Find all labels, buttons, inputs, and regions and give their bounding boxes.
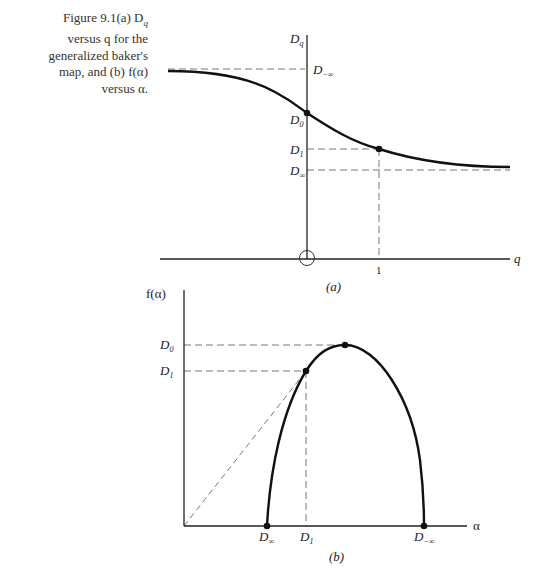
diagonal-dashed-line	[184, 371, 306, 526]
f-alpha-axis-label: f(α)	[146, 286, 166, 301]
x-dneginf-label: D−∞	[413, 529, 435, 546]
panel-a: Dq D−∞ D0 D1 D∞ 1 q (a)	[160, 31, 521, 294]
b-d1-label: D1	[159, 363, 173, 380]
d1-point	[376, 146, 383, 153]
dq-curve	[168, 71, 510, 167]
panel-b: f(α) D0 D1 D∞ D1 D−∞ α (b)	[146, 286, 480, 564]
alpha-axis-label: α	[473, 518, 480, 533]
dneginf-label: D−∞	[312, 62, 334, 79]
dq-axis-label: Dq	[289, 31, 303, 48]
d0-label: D0	[289, 112, 303, 129]
f-alpha-curve	[267, 345, 424, 526]
d1-label: D1	[289, 142, 303, 159]
x-dinf-label: D∞	[258, 529, 274, 546]
b-d0-label: D0	[159, 337, 173, 354]
panel-b-label: (b)	[329, 549, 344, 564]
figure-canvas: Dq D−∞ D0 D1 D∞ 1 q (a) f(α) D0 D1 D∞ D1…	[0, 0, 548, 577]
b-d1-point	[303, 368, 310, 375]
d0-point	[304, 110, 311, 117]
q-axis-label: q	[514, 251, 521, 266]
tick-1-label: 1	[376, 264, 382, 276]
panel-a-label: (a)	[326, 279, 341, 294]
x-d1-label: D1	[299, 529, 313, 546]
dinf-label: D∞	[289, 163, 305, 180]
b-peak-point	[342, 342, 349, 349]
